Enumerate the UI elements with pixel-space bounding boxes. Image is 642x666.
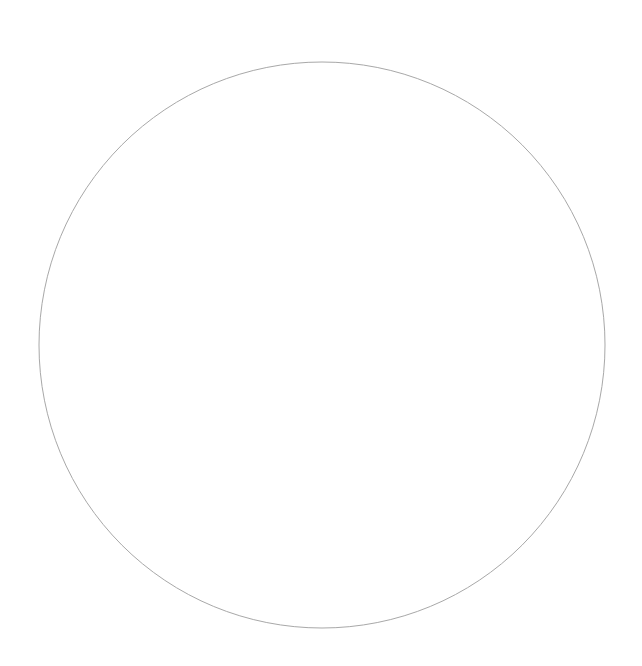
drawing-svg <box>0 0 642 666</box>
circle-outline <box>39 62 605 628</box>
drawing-canvas <box>0 0 642 666</box>
